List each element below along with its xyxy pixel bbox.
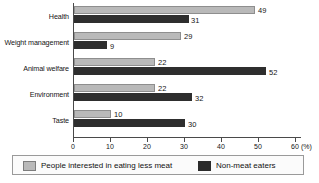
value-taste-interested: 10 <box>114 111 122 119</box>
bar-environment-nonmeat <box>74 93 192 101</box>
value-animal-welfare-interested: 22 <box>158 59 166 67</box>
category-label-environment: Environment <box>0 90 69 99</box>
bar-weight-management-nonmeat <box>74 41 107 49</box>
value-animal-welfare-nonmeat: 52 <box>269 69 277 77</box>
x-tick-label-10: 10 <box>106 142 114 151</box>
value-taste-nonmeat: 30 <box>188 121 196 129</box>
value-environment-interested: 22 <box>158 85 166 93</box>
x-axis-line <box>73 137 301 138</box>
bar-environment-interested <box>74 84 155 92</box>
x-tick-label-60: 60 <box>291 142 299 151</box>
value-health-nonmeat: 31 <box>191 17 199 25</box>
category-label-animal-welfare: Animal welfare <box>0 64 69 73</box>
x-tick-label-0: 0 <box>71 142 75 151</box>
plot-area: Health Weight management Animal welfare … <box>0 0 319 146</box>
bar-animal-welfare-nonmeat <box>74 67 266 75</box>
legend-item-nonmeat: Non-meat eaters <box>198 160 276 171</box>
value-weight-management-nonmeat: 9 <box>110 43 114 51</box>
x-tick-label-40: 40 <box>217 142 225 151</box>
legend-label-nonmeat: Non-meat eaters <box>216 160 276 171</box>
bar-health-interested <box>74 6 255 14</box>
x-tick-label-30: 30 <box>180 142 188 151</box>
legend-swatch-light-gray <box>23 161 36 171</box>
value-health-interested: 49 <box>258 7 266 15</box>
bar-taste-nonmeat <box>74 119 185 127</box>
category-label-health: Health <box>0 12 69 21</box>
x-tick-label-20: 20 <box>143 142 151 151</box>
category-label-weight-management: Weight management <box>0 38 69 47</box>
x-axis-unit-label: (%) <box>301 142 312 151</box>
bar-chart: Health Weight management Animal welfare … <box>0 0 319 183</box>
bar-health-nonmeat <box>74 15 189 23</box>
legend-label-interested: People interested in eating less meat <box>41 160 172 171</box>
bar-taste-interested <box>74 110 111 118</box>
value-weight-management-interested: 29 <box>184 33 192 41</box>
value-environment-nonmeat: 32 <box>195 95 203 103</box>
chart-legend: People interested in eating less meat No… <box>12 155 304 175</box>
legend-item-interested: People interested in eating less meat <box>23 160 172 171</box>
bar-animal-welfare-interested <box>74 58 155 66</box>
category-label-taste: Taste <box>0 116 69 125</box>
x-tick-label-50: 50 <box>254 142 262 151</box>
legend-swatch-dark <box>198 161 211 171</box>
bar-weight-management-interested <box>74 32 181 40</box>
